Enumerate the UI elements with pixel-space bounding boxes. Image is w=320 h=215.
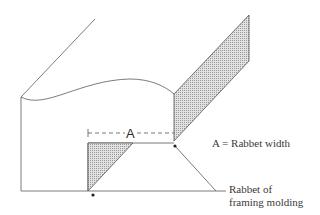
dimension-label-a: A (125, 127, 136, 140)
rabbet-face-left (88, 143, 133, 191)
callout-line-1: Rabbet of (229, 183, 272, 195)
artwork-wavy-edge (21, 79, 174, 100)
artwork-top-edge (21, 19, 95, 97)
rabbet-face-right (174, 15, 249, 141)
legend-rabbet-width: A = Rabbet width (212, 137, 290, 149)
callout-line-2: framing molding (229, 196, 303, 208)
rabbet-corner-dot-lower (91, 193, 94, 196)
molding-diagonal (175, 146, 216, 191)
rabbet-corner-dot-upper (173, 144, 176, 147)
